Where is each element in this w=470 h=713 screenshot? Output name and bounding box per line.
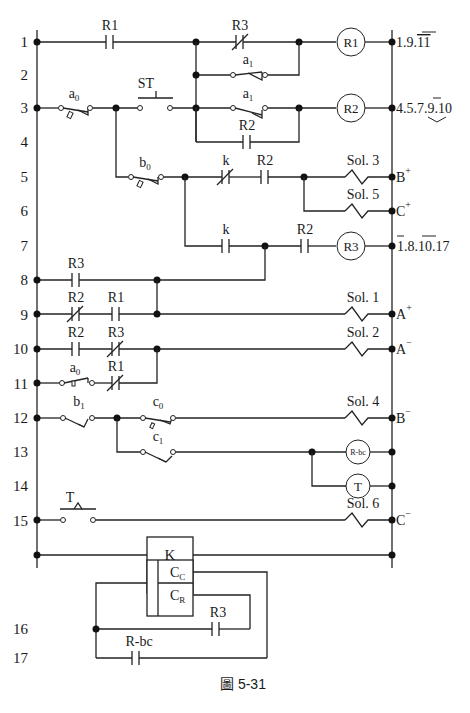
- label-sol6: Sol. 6: [347, 496, 380, 511]
- label-k: k: [223, 153, 230, 168]
- rung-12: b1 c0 Sol. 4 B−: [34, 394, 412, 429]
- label-t: T: [66, 490, 75, 505]
- start-pushbutton-st: [138, 91, 174, 111]
- svg-text:R3: R3: [343, 239, 358, 254]
- right-label-row7: 1.8.10.17: [397, 236, 450, 254]
- rung-number: 14: [13, 478, 29, 494]
- solenoid-sol2: [345, 342, 392, 356]
- rung-number: 1: [21, 34, 29, 50]
- right-label-row9: A+: [396, 302, 412, 322]
- rung-number: 13: [13, 444, 28, 460]
- rung-number: 9: [21, 307, 29, 323]
- label-sol5: Sol. 5: [347, 187, 380, 202]
- rung-number: 6: [21, 203, 29, 219]
- contact-r3-no-row16: [212, 622, 219, 636]
- counter-block-k: K CC CR: [34, 537, 396, 658]
- coil-r3: R3: [337, 232, 365, 260]
- right-label-row3: 4.5.7.9.10: [396, 98, 452, 122]
- label-r2: R2: [297, 222, 313, 237]
- rung-number: 10: [13, 341, 28, 357]
- right-label-row15: C−: [396, 508, 411, 528]
- limit-switch-a0-row11: [60, 378, 95, 386]
- rung-5: b0 k R2 Sol. 3 B+: [116, 108, 411, 188]
- limit-switch-a1-row2: [231, 72, 268, 80]
- rung-9: R2 R1 Sol. 1 A+: [34, 290, 413, 322]
- label-r2: R2: [257, 153, 273, 168]
- contact-r2-no-row10: [72, 342, 79, 356]
- rung-7: k R2 R3 1.8.10.17: [185, 177, 450, 260]
- ladder-diagram: 1 2 3 4 5 6 7 8 9 10 11 12 13 14 15 16 1…: [0, 0, 470, 713]
- label-r2: R2: [68, 325, 84, 340]
- label-r2: R2: [239, 118, 255, 133]
- coil-r2: R2: [337, 94, 365, 122]
- rung-15: T Sol. 6 C−: [34, 490, 412, 528]
- contact-r2-no-row7: [301, 239, 308, 253]
- right-label-row1: 1.9.11: [396, 32, 436, 50]
- svg-text:R1: R1: [343, 35, 358, 50]
- contact-r1-no: [106, 35, 113, 49]
- limit-switch-c1: [141, 450, 176, 463]
- rung-number: 4: [21, 134, 29, 150]
- rung-4: R2: [196, 108, 299, 149]
- label-sol4: Sol. 4: [347, 394, 380, 409]
- rung-number: 7: [21, 238, 29, 254]
- svg-text:1.9.11: 1.9.11: [396, 35, 430, 50]
- limit-switch-b0: [129, 175, 164, 188]
- coil-rbc: R-bc: [346, 440, 370, 464]
- rung-number: 11: [14, 376, 28, 392]
- rung-3: a0 ST a1 R2 4.5.7.9.10: [34, 76, 453, 122]
- label-a0: a0: [69, 86, 80, 103]
- solenoid-sol5: [345, 204, 392, 218]
- label-sol2: Sol. 2: [347, 325, 380, 340]
- contact-rbc-no: [132, 651, 139, 665]
- label-a1: a1: [243, 52, 254, 69]
- right-label-row10: A−: [396, 337, 412, 357]
- label-c1: c1: [153, 429, 164, 446]
- contact-r3-no-row8: [72, 273, 79, 287]
- limit-switch-b1: [61, 416, 95, 428]
- coil-timer-t: T: [346, 474, 370, 498]
- limit-switch-a0-row3: [59, 106, 93, 119]
- contact-r2-no-row4: [243, 135, 250, 149]
- rung-13: c1 R-bc: [117, 418, 396, 464]
- right-label-row6: C+: [396, 199, 411, 219]
- limit-switch-a1-row3: [231, 106, 268, 119]
- label-r1: R1: [108, 359, 124, 374]
- label-k: k: [223, 222, 230, 237]
- svg-text:4.5.7.9.10: 4.5.7.9.10: [396, 101, 452, 116]
- rung-number: 12: [13, 410, 28, 426]
- rung-10: R2 R3 Sol. 2 A−: [34, 325, 413, 357]
- label-r2: R2: [68, 290, 84, 305]
- svg-text:1.8.10.17: 1.8.10.17: [397, 239, 450, 254]
- label-sol1: Sol. 1: [347, 290, 380, 305]
- limit-switch-c0: [141, 416, 176, 429]
- label-r3: R3: [232, 18, 248, 33]
- right-label-row12: B−: [396, 406, 411, 426]
- label-sol3: Sol. 3: [347, 153, 380, 168]
- contact-r1-no-row9: [112, 307, 119, 321]
- label-r1: R1: [102, 18, 118, 33]
- figure-caption: 圖 5-31: [220, 676, 266, 692]
- label-r3: R3: [210, 605, 226, 620]
- label-r1: R1: [108, 290, 124, 305]
- contact-r2-no-row5: [261, 170, 268, 184]
- label-b1: b1: [73, 394, 85, 411]
- svg-text:R-bc: R-bc: [350, 448, 366, 457]
- label-rbc: R-bc: [125, 634, 152, 649]
- rung-17: R-bc: [96, 634, 267, 665]
- rung-numbers: 1 2 3 4 5 6 7 8 9 10 11 12 13 14 15 16 1…: [13, 34, 29, 666]
- svg-text:R2: R2: [343, 101, 358, 116]
- solenoid-sol4: [345, 411, 392, 425]
- coil-r1: R1: [337, 28, 365, 56]
- timer-contact-t: [60, 503, 96, 523]
- solenoid-sol3: [345, 170, 392, 184]
- rung-number: 17: [13, 650, 29, 666]
- label-r3: R3: [108, 325, 124, 340]
- solenoid-sol1: [345, 307, 392, 321]
- right-label-row5: B+: [396, 165, 411, 185]
- label-a1-row3: a1: [243, 86, 254, 103]
- label-b0: b0: [139, 155, 151, 172]
- rung-number: 5: [21, 169, 29, 185]
- label-c0: c0: [153, 394, 164, 411]
- rung-1: R1 R3 R1 1.9.11: [34, 18, 437, 56]
